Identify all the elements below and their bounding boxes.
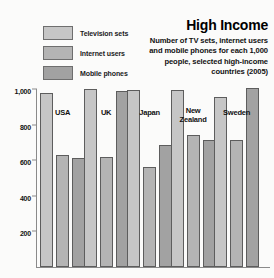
legend-item-mobile-phones: Mobile phones [43, 65, 143, 81]
country-label-new-zealand: New Zealand [171, 107, 216, 124]
bar-sweden-tv [214, 97, 227, 267]
legend-item-television-sets: Television sets [43, 25, 143, 41]
y-axis-tick-mark [32, 89, 37, 90]
country-label-japan: Japan [127, 109, 172, 118]
y-axis-tick-mark [32, 231, 37, 232]
chart-container: Television sets Internet users Mobile ph… [0, 0, 274, 278]
y-axis-tick-label: 1,000 [14, 88, 31, 95]
legend-swatch-mobile-phones [43, 66, 73, 80]
country-label-uk: UK [84, 109, 129, 118]
y-axis-tick-label: 400 [20, 195, 31, 202]
chart-title: High Income [138, 18, 268, 33]
y-axis-tick-label: 800 [20, 124, 31, 131]
bar-japan-net [143, 167, 156, 267]
y-axis-tick-mark [32, 195, 37, 196]
chart-title-block: High Income Number of TV sets, internet … [138, 18, 268, 78]
y-axis-tick-mark [32, 124, 37, 125]
legend-item-internet-users: Internet users [43, 45, 143, 61]
chart-subtitle: Number of TV sets, internet users and mo… [138, 36, 268, 78]
legend-swatch-internet-users [43, 46, 73, 60]
y-axis-tick-mark [32, 160, 37, 161]
legend-label-mobile-phones: Mobile phones [80, 70, 128, 77]
country-label-usa: USA [40, 109, 85, 118]
bar-usa-tv [40, 93, 53, 267]
plot-area: 2004006008001,000 USAUKJapanNew ZealandS… [38, 89, 270, 267]
legend-label-internet-users: Internet users [80, 50, 125, 57]
x-axis-baseline [36, 267, 270, 268]
bar-new-zealand-net [187, 135, 200, 267]
bar-usa-net [56, 155, 69, 267]
bar-uk-net [100, 157, 113, 267]
bar-sweden-net [230, 140, 243, 267]
legend-label-television-sets: Television sets [80, 30, 128, 37]
y-axis-tick-label: 200 [20, 230, 31, 237]
legend-swatch-television-sets [43, 26, 73, 40]
chart-legend: Television sets Internet users Mobile ph… [43, 25, 143, 85]
y-axis-tick-label: 600 [20, 159, 31, 166]
country-label-sweden: Sweden [214, 109, 259, 118]
